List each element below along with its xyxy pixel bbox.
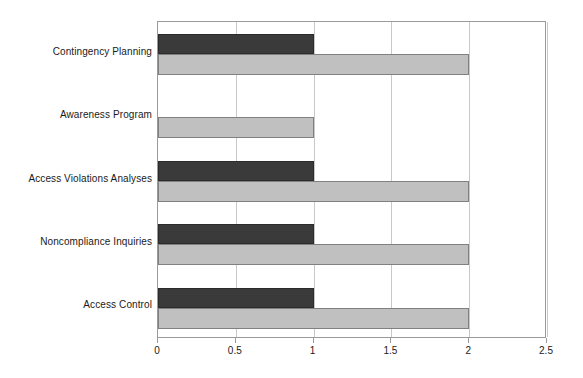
y-axis-label: Access Violations Analyses (0, 173, 152, 184)
x-axis-tick (313, 338, 314, 343)
plot-area (157, 21, 546, 338)
bar-0 (158, 161, 314, 181)
x-axis-tick-label: 0 (154, 345, 160, 356)
x-axis-tick-label: 0.5 (228, 345, 242, 356)
bar-1 (158, 308, 469, 329)
x-axis-tick-label: 1.5 (383, 345, 397, 356)
x-axis-ticks (157, 338, 546, 344)
bar-group (158, 85, 545, 148)
bar-0 (158, 288, 314, 308)
bar-group (158, 22, 545, 85)
x-axis-tick-label: 2 (465, 345, 471, 356)
x-axis-tick (390, 338, 391, 343)
bar-group (158, 276, 545, 339)
x-axis-tick (157, 338, 158, 343)
x-axis-tick-label: 2.5 (539, 345, 553, 356)
bar-0 (158, 224, 314, 244)
bar-1 (158, 244, 469, 265)
bar-1 (158, 54, 469, 75)
bar-group (158, 149, 545, 212)
bar-1 (158, 117, 314, 138)
x-axis-tick (235, 338, 236, 343)
x-axis-tick-labels: 00.511.522.5 (0, 345, 583, 361)
bar-1 (158, 181, 469, 202)
y-axis-label: Access Control (0, 299, 152, 310)
y-axis-label: Contingency Planning (0, 46, 152, 57)
bar-0 (158, 34, 314, 54)
x-axis-tick (468, 338, 469, 343)
y-axis-label: Noncompliance Inquiries (0, 236, 152, 247)
x-axis-tick-label: 1 (310, 345, 316, 356)
y-axis-category-labels: Contingency PlanningAwareness ProgramAcc… (0, 21, 152, 338)
x-axis-tick (546, 338, 547, 343)
chart-page: Contingency PlanningAwareness ProgramAcc… (0, 0, 583, 378)
y-axis-label: Awareness Program (0, 109, 152, 120)
gridline-vertical (547, 22, 548, 337)
bar-group (158, 212, 545, 275)
